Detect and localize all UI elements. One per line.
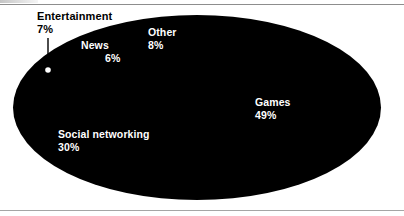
bottom-divider-rule [0,210,404,211]
slice-label-games: Games 49% [255,96,291,122]
slice-label-news-name: News [81,39,120,52]
slice-label-entertainment: Entertainment 7% [37,10,112,37]
slice-label-entertainment-name: Entertainment [37,10,112,23]
slice-label-other-name: Other [148,26,177,39]
slice-label-other: Other 8% [148,26,177,52]
slice-label-social-networking-value: 30% [58,141,150,154]
slice-label-games-name: Games [255,96,291,109]
slice-label-games-value: 49% [255,109,291,122]
slice-label-other-value: 8% [148,39,177,52]
slice-label-social-networking-name: Social networking [58,128,150,141]
chart-ellipse-area [13,15,381,200]
entertainment-callout-dot [45,67,51,73]
chart-figure: Entertainment 7% News 6% Other 8% Games … [0,0,404,216]
slice-label-news-value: 6% [81,52,120,65]
slice-label-entertainment-value: 7% [37,23,112,36]
slice-label-news: News 6% [81,39,120,65]
slice-label-social-networking: Social networking 30% [58,128,150,154]
